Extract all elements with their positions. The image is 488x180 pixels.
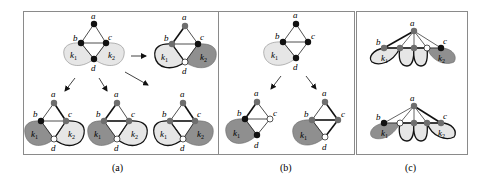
node-a [293, 21, 299, 27]
label-a: a [91, 11, 96, 21]
label-c: c [311, 31, 315, 41]
node-b [167, 118, 173, 124]
node-a [91, 21, 97, 27]
label-b: b [73, 33, 78, 43]
label-d: d [51, 143, 56, 153]
lobe-k1 [264, 42, 296, 65]
node-b [101, 118, 107, 124]
arrow-down-middle [99, 78, 107, 91]
label-d: d [180, 143, 185, 153]
caption-a: (a) [112, 162, 123, 174]
node-d [293, 55, 299, 61]
node-inner-1 [397, 45, 403, 51]
node-d [180, 136, 186, 142]
label-a: a [293, 10, 298, 20]
graph-a-bottom-1: a b c d k1 k2 [25, 89, 85, 153]
label-c: c [197, 109, 201, 119]
node-d [51, 136, 57, 142]
label-b: b [162, 109, 167, 119]
label-b: b [376, 112, 381, 122]
node-inner-3 [424, 45, 430, 51]
lobe-k1 [64, 43, 94, 66]
label-a: a [410, 93, 415, 103]
node-d [91, 56, 97, 62]
panel-c: a b c k1 k2 a b c k1 [371, 18, 456, 141]
node-a [411, 103, 417, 109]
label-d: d [254, 140, 259, 150]
arrow-down-left [271, 76, 281, 89]
node-d [254, 132, 260, 138]
node-inner-1 [397, 120, 403, 126]
graph-c-bottom: a b c k1 k2 [371, 93, 456, 141]
label-a: a [51, 89, 56, 99]
label-d: d [91, 63, 96, 73]
label-a: a [180, 89, 185, 99]
label-c: c [108, 32, 112, 42]
node-a [51, 100, 57, 106]
node-a [114, 100, 120, 106]
graph-b-root: a b c d k1 [264, 10, 315, 72]
graph-b-left: a b c d k1 [226, 88, 277, 150]
label-a: a [114, 89, 119, 99]
caption-c: (c) [405, 162, 416, 174]
label-b: b [96, 109, 101, 119]
label-b: b [237, 108, 242, 118]
node-a [411, 28, 417, 34]
label-d: d [293, 62, 298, 72]
label-c: c [341, 109, 345, 119]
node-b [169, 41, 175, 47]
node-b [242, 116, 248, 122]
node-inner-2 [411, 45, 417, 51]
node-d [114, 136, 120, 142]
graph-a-root: a b c d k1 k2 [64, 11, 125, 73]
node-a [322, 99, 328, 105]
graph-c-top: a b c k1 k2 [371, 18, 456, 66]
node-b [309, 117, 315, 123]
node-inner-2 [411, 120, 417, 126]
label-b: b [304, 109, 309, 119]
label-b: b [275, 31, 280, 41]
node-b [78, 40, 84, 46]
node-d [182, 59, 188, 65]
node-inner-3 [424, 120, 430, 126]
node-b [381, 45, 387, 51]
caption-b: (b) [280, 162, 292, 174]
panel-b: a b c d k1 a b c d k1 [226, 10, 345, 152]
label-c: c [443, 36, 447, 46]
node-a [180, 100, 186, 106]
label-a: a [322, 88, 327, 98]
graph-a-right: a b c d k1 k2 [155, 12, 217, 76]
panel-a: a b c d k1 k2 a b c d [25, 11, 217, 153]
arrow-down-right [125, 72, 148, 85]
label-d: d [114, 143, 119, 153]
node-a [182, 23, 188, 29]
label-c: c [131, 109, 135, 119]
node-d [322, 134, 328, 140]
graph-b-right: a b c d k1 [293, 88, 345, 152]
arrow-down-left [65, 78, 75, 91]
label-c: c [443, 111, 447, 121]
label-c: c [200, 32, 204, 42]
graph-coloring-figure: a b c d k1 k2 a b c d [0, 0, 488, 180]
arrow-down-right [306, 76, 316, 89]
label-a: a [410, 18, 415, 28]
lobe-k1 [226, 119, 257, 144]
label-b: b [33, 109, 38, 119]
lobe-k1 [293, 120, 325, 145]
label-c: c [273, 108, 277, 118]
label-a: a [254, 88, 259, 98]
node-b [38, 118, 44, 124]
graph-a-bottom-3: a b c d k1 k2 [154, 89, 214, 153]
label-c: c [68, 109, 72, 119]
label-d: d [182, 66, 187, 76]
node-b [280, 39, 286, 45]
label-b: b [376, 37, 381, 47]
label-a: a [182, 12, 187, 22]
node-a [254, 99, 260, 105]
label-b: b [164, 33, 169, 43]
graph-a-bottom-2: a b c d k1 k2 [88, 89, 148, 153]
label-d: d [322, 142, 327, 152]
node-b [381, 120, 387, 126]
